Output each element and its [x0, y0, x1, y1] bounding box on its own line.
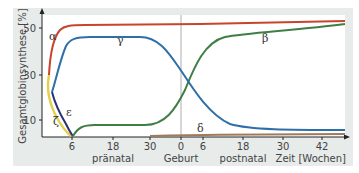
- plot-area: [42, 15, 345, 137]
- phase-label-prenatal: pränatal: [92, 153, 134, 164]
- phase-label-postnatal: postnatal: [220, 153, 267, 164]
- x-axis-arrow-icon: [344, 135, 350, 140]
- x-tick-18-pre: 18: [107, 141, 120, 152]
- x-tick-0: 0: [178, 141, 184, 152]
- y-axis-arrow-icon: [40, 8, 45, 14]
- x-axis-label: Zeit [Wochen]: [276, 153, 347, 164]
- label-zeta: ζ: [53, 115, 59, 128]
- label-beta: β: [262, 32, 268, 45]
- label-epsilon: ε: [66, 106, 72, 119]
- phase-label-birth: Geburt: [164, 153, 199, 164]
- x-tick-42-post: 42: [316, 141, 329, 152]
- x-tick-6-post: 6: [200, 141, 206, 152]
- x-ticks: 6 18 30 0 6 18 30 42 pränatal Geburt pos…: [69, 137, 346, 164]
- y-axis-label: Gesamtglobinsynthese [%]: [17, 8, 28, 143]
- x-tick-6-pre: 6: [69, 141, 75, 152]
- x-tick-30-pre: 30: [144, 141, 157, 152]
- label-gamma: γ: [117, 34, 124, 47]
- x-tick-18-post: 18: [237, 141, 250, 152]
- x-tick-30-post: 30: [277, 141, 290, 152]
- globin-chart: 50 30 10 6 18 30 0 6 18 30 42 pränatal G…: [0, 0, 359, 173]
- label-delta: δ: [197, 122, 204, 135]
- label-alpha: α: [49, 30, 57, 43]
